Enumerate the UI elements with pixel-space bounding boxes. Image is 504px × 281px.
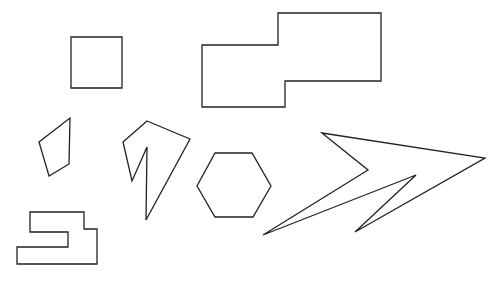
shapes-canvas — [0, 0, 504, 281]
bracket-shape — [17, 212, 97, 264]
concave-polygon-shape — [123, 121, 190, 220]
square-shape — [71, 37, 122, 88]
hexagon-shape — [197, 153, 271, 217]
zigzag-arrow-shape — [263, 133, 485, 235]
quadrilateral-shape — [39, 118, 70, 176]
stepped-rectangle-shape — [202, 13, 381, 107]
